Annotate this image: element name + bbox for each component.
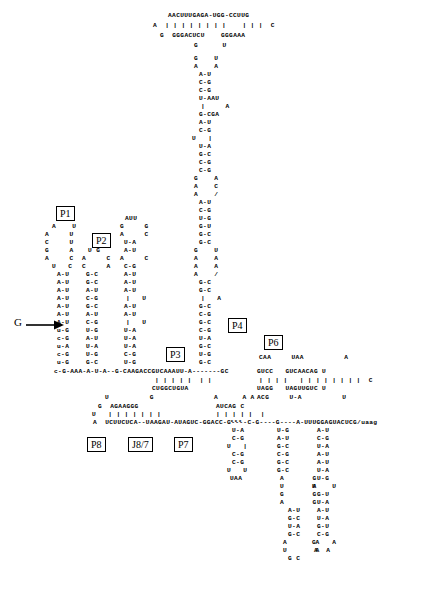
sequence-line-r32: U-A <box>317 515 329 523</box>
sequence-line-l38: | U <box>126 319 146 327</box>
sequence-line-r10: U-A <box>317 443 329 451</box>
sequence-line-t1: AACUUUGAGA-UGG-CCUUG <box>168 12 249 20</box>
sequence-line-l45: u-A <box>57 343 69 351</box>
sequence-line-r22: U-G <box>317 475 329 483</box>
sequence-line-l52: G-C <box>86 359 98 367</box>
helix-label-p1: P1 <box>56 206 75 221</box>
sequence-line-s32: G-C <box>199 303 211 311</box>
sequence-line-p6d: UAGG UAGUUGUC U <box>257 385 326 393</box>
helix-label-p6: P6 <box>264 335 283 350</box>
sequence-line-s28: A / <box>194 271 218 279</box>
sequence-line-l35: A-U <box>124 311 136 319</box>
sequence-line-s34: G-C <box>199 319 211 327</box>
sequence-line-l6: A C <box>120 231 148 239</box>
sequence-line-l25: A-U <box>86 287 98 295</box>
sequence-line-l20: A-U <box>124 271 136 279</box>
sequence-line-r28: U-A <box>317 499 329 507</box>
sequence-line-l40: U-G <box>86 327 98 335</box>
sequence-line-s1: G U <box>194 55 218 63</box>
sequence-line-r24: U U <box>312 483 336 491</box>
sequence-line-t4: G U <box>194 42 227 50</box>
sequence-line-l37: C-G <box>86 319 98 327</box>
sequence-line-s29: G-C <box>199 279 211 287</box>
sequence-line-s12: U-A <box>199 143 211 151</box>
sequence-line-s23: G-C <box>199 231 211 239</box>
sequence-line-s5: C-G <box>199 87 211 95</box>
sequence-line-p6e: ACG U-A U <box>257 394 346 402</box>
sequence-line-s24: G-C <box>199 239 211 247</box>
sequence-line-c2: A A A <box>214 394 255 402</box>
sequence-line-s11: U | <box>192 135 212 143</box>
sequence-line-r36: C-G <box>317 531 329 539</box>
sequence-line-l26: A-U <box>124 287 136 295</box>
helix-label-p8: P8 <box>87 437 106 452</box>
sequence-line-r34: G-U <box>317 523 329 531</box>
helix-label-p7: P7 <box>174 437 193 452</box>
sequence-line-s16: G A <box>194 175 218 183</box>
sequence-line-r16: A-U <box>317 459 329 467</box>
sequence-line-r29: A-U <box>288 507 300 515</box>
sequence-line-l29: | U <box>126 295 146 303</box>
g-cofactor-label: G <box>14 316 22 328</box>
sequence-line-s21: U-G <box>199 215 211 223</box>
sequence-line-s26: A A <box>194 255 218 263</box>
sequence-line-r31: G-C <box>288 515 300 523</box>
sequence-line-s22: G-U <box>199 223 211 231</box>
sequence-line-r13: A-U <box>317 451 329 459</box>
sequence-line-l51: u-G <box>57 359 69 367</box>
sequence-line-r6: A-U <box>277 435 289 443</box>
sequence-line-s7: | A <box>201 103 229 111</box>
sequence-line-b2: | | | | | | | <box>155 377 212 385</box>
sequence-line-s30: G-C <box>199 287 211 295</box>
sequence-line-t3: G GGGACUCU GGGAAA <box>160 32 245 40</box>
sequence-line-l3: A U <box>52 223 76 231</box>
sequence-line-l24: A-U <box>57 287 69 295</box>
sequence-line-c3: G AGAAGGG <box>98 403 139 411</box>
sequence-line-s38: U-G <box>199 351 211 359</box>
sequence-line-p6a: CAA UAA A <box>259 354 348 362</box>
sequence-line-l28: C-G <box>86 295 98 303</box>
sequence-line-r9: G-C <box>277 443 289 451</box>
sequence-line-r19: U-A <box>317 467 329 475</box>
sequence-line-s2: A A <box>194 63 218 71</box>
sequence-line-l50: C-G <box>124 351 136 359</box>
sequence-line-r25: G G <box>280 491 317 499</box>
sequence-line-c4: AUCAG C <box>216 403 244 411</box>
sequence-line-l48: c-G <box>57 351 69 359</box>
helix-label-p3: P3 <box>166 347 185 362</box>
sequence-line-s9: A-U <box>199 119 211 127</box>
sequence-line-r30: A-U <box>317 507 329 515</box>
sequence-line-r7: C-G <box>317 435 329 443</box>
sequence-line-t2: A | | | | | | | | | | | C <box>153 22 275 30</box>
sequence-line-l11: A-U <box>124 247 136 255</box>
sequence-line-r15: G-C <box>277 459 289 467</box>
sequence-line-s3: A-U <box>199 71 211 79</box>
sequence-line-l43: A-U <box>86 335 98 343</box>
sequence-line-l41: U-A <box>124 327 136 335</box>
sequence-line-l53: U-G <box>124 359 136 367</box>
sequence-line-r38: G A <box>312 539 336 547</box>
sequence-line-l34: A-U <box>86 311 98 319</box>
sequence-line-r41: G C <box>288 555 300 563</box>
sequence-line-r4: A-U <box>317 427 329 435</box>
sequence-line-s15: C-G <box>199 167 211 175</box>
sequence-line-s4: C-G <box>199 79 211 87</box>
sequence-line-l13: A C <box>82 255 110 263</box>
sequence-line-s27: A A <box>194 263 218 271</box>
sequence-line-r5: C-G <box>232 435 244 443</box>
helix-label-p2: P2 <box>92 233 111 248</box>
sequence-line-p6c: | | | | | | | | | | | | C <box>259 377 373 385</box>
sequence-line-s36: U-A <box>199 335 211 343</box>
sequence-line-l21: A-U <box>57 279 69 287</box>
sequence-line-r40: A A <box>314 547 330 555</box>
sequence-line-l14: A C <box>120 255 148 263</box>
sequence-line-l7: C U <box>45 239 73 247</box>
sequence-line-s39: G-C <box>199 359 211 367</box>
sequence-line-l31: G-C <box>86 303 98 311</box>
sequence-line-l2: AUU <box>125 215 137 223</box>
sequence-line-s14: C-G <box>199 159 211 167</box>
sequence-line-r21: A G <box>280 475 317 483</box>
sequence-line-r14: C-G <box>232 459 244 467</box>
sequence-line-r18: G-C <box>277 467 289 475</box>
sequence-line-p6b: GUCC GUCAACAG U <box>257 368 326 376</box>
